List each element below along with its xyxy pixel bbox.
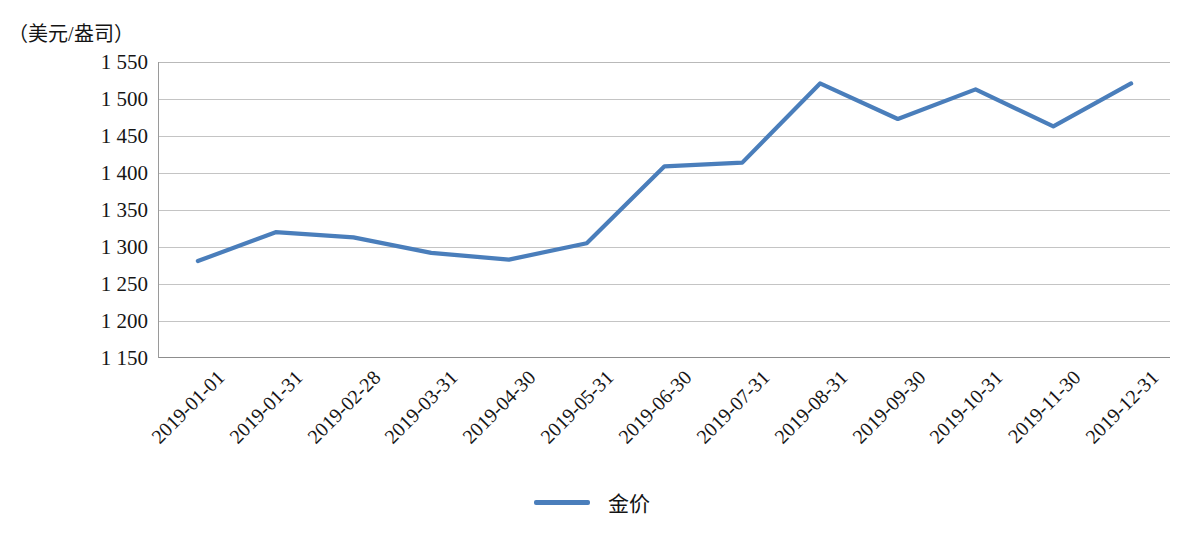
legend-label-gold-price: 金价	[608, 487, 650, 517]
x-axis-tick-label: 2019-03-31	[380, 366, 462, 448]
x-axis-tick-label: 2019-10-31	[925, 366, 1007, 448]
y-axis-tick-label: 1 400	[101, 161, 148, 186]
y-axis-tick-label: 1 550	[101, 50, 148, 75]
x-axis-tick-label: 2019-12-31	[1081, 366, 1163, 448]
plot-area	[158, 62, 1170, 358]
x-axis-tick-label: 2019-02-28	[303, 366, 385, 448]
x-axis-tick-label: 2019-01-01	[147, 366, 229, 448]
x-axis-tick-label: 2019-05-31	[536, 366, 618, 448]
x-axis-tick-label: 2019-11-30	[1004, 366, 1086, 448]
series-polyline	[198, 83, 1131, 261]
y-axis-tick-label: 1 450	[101, 124, 148, 149]
y-axis-tick-label: 1 350	[101, 198, 148, 223]
y-axis-tick-label: 1 500	[101, 87, 148, 112]
legend-swatch-gold-price	[534, 500, 590, 505]
x-axis-tick-label: 2019-07-31	[692, 366, 774, 448]
y-axis-tick-labels: 1 5501 5001 4501 4001 3501 3001 2501 200…	[0, 0, 148, 533]
chart-legend: 金价	[0, 487, 1183, 517]
x-axis-tick-label: 2019-08-31	[770, 366, 852, 448]
y-axis-tick-label: 1 150	[101, 346, 148, 371]
x-axis-tick-label: 2019-04-30	[458, 366, 540, 448]
series-line-gold-price	[159, 62, 1170, 358]
y-axis-tick-label: 1 250	[101, 272, 148, 297]
y-axis-tick-label: 1 200	[101, 309, 148, 334]
x-axis-tick-label: 2019-06-30	[614, 366, 696, 448]
x-axis-tick-label: 2019-01-31	[225, 366, 307, 448]
y-axis-tick-label: 1 300	[101, 235, 148, 260]
chart-page: （美元/盎司） 1 5501 5001 4501 4001 3501 3001 …	[0, 0, 1183, 533]
x-axis-tick-label: 2019-09-30	[848, 366, 930, 448]
